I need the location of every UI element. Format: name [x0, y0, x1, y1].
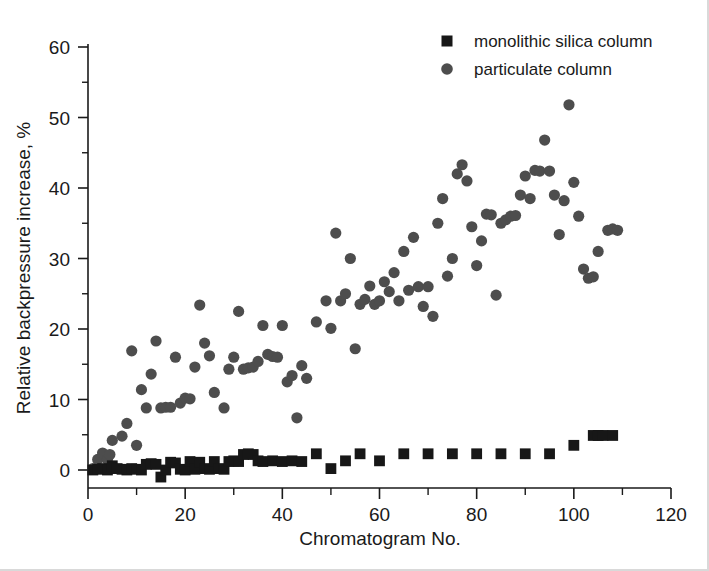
data-point-circle: [340, 288, 351, 299]
data-point-square: [296, 456, 307, 467]
x-tick-label: 120: [655, 504, 687, 525]
legend-label: monolithic silica column: [474, 32, 653, 51]
data-point-square: [398, 448, 409, 459]
data-point-circle: [301, 373, 312, 384]
data-point-circle: [593, 246, 604, 257]
data-point-circle: [141, 402, 152, 413]
data-point-circle: [442, 271, 453, 282]
data-point-square: [355, 448, 366, 459]
data-point-square: [544, 448, 555, 459]
data-point-circle: [252, 356, 263, 367]
y-axis-ticks: [78, 47, 88, 470]
data-point-circle: [359, 294, 370, 305]
data-point-circle: [515, 189, 526, 200]
data-point-circle: [165, 402, 176, 413]
data-point-circle: [116, 431, 127, 442]
data-point-circle: [257, 320, 268, 331]
data-point-circle: [204, 350, 215, 361]
data-point-square: [287, 455, 298, 466]
data-point-circle: [131, 440, 142, 451]
legend-label: particulate column: [474, 60, 612, 79]
x-tick-label: 20: [175, 504, 196, 525]
data-point-circle: [466, 221, 477, 232]
data-point-circle: [612, 225, 623, 236]
data-point-circle: [568, 177, 579, 188]
y-tick-label: 0: [59, 460, 70, 481]
data-point-square: [447, 448, 458, 459]
data-point-square: [471, 448, 482, 459]
y-tick-label: 20: [49, 319, 70, 340]
data-point-square: [311, 448, 322, 459]
data-point-circle: [418, 301, 429, 312]
data-point-circle: [126, 345, 137, 356]
data-point-circle: [146, 369, 157, 380]
data-point-square: [423, 448, 434, 459]
data-point-square: [326, 463, 337, 474]
data-point-square: [520, 448, 531, 459]
data-point-circle: [486, 209, 497, 220]
data-point-circle: [525, 193, 536, 204]
data-point-square: [267, 455, 278, 466]
x-axis: 020406080100120 Chromatogram No.: [83, 488, 687, 549]
data-point-circle: [228, 352, 239, 363]
data-point-circle: [104, 449, 115, 460]
data-point-circle: [199, 338, 210, 349]
data-point-circle: [456, 159, 467, 170]
data-point-circle: [491, 290, 502, 301]
data-point-circle: [374, 295, 385, 306]
data-point-circle: [588, 271, 599, 282]
data-point-circle: [379, 276, 390, 287]
x-tick-label: 40: [272, 504, 293, 525]
data-point-circle: [520, 170, 531, 181]
data-point-circle: [218, 402, 229, 413]
data-point-circle: [136, 384, 147, 395]
legend-marker-circle: [441, 63, 453, 75]
data-point-circle: [277, 320, 288, 331]
data-point-circle: [320, 295, 331, 306]
data-point-circle: [272, 352, 283, 363]
y-axis-title: Relative backpressure increase, %: [13, 122, 34, 415]
chart-legend: monolithic silica columnparticulate colu…: [441, 32, 652, 79]
data-point-square: [598, 430, 609, 441]
data-point-circle: [403, 285, 414, 296]
data-point-circle: [471, 260, 482, 271]
data-point-circle: [388, 267, 399, 278]
data-point-circle: [422, 281, 433, 292]
data-point-circle: [408, 232, 419, 243]
data-point-circle: [311, 316, 322, 327]
data-point-circle: [345, 253, 356, 264]
data-point-circle: [233, 306, 244, 317]
data-point-circle: [189, 361, 200, 372]
data-point-circle: [563, 99, 574, 110]
data-point-circle: [437, 193, 448, 204]
y-tick-label: 40: [49, 178, 70, 199]
data-point-circle: [432, 218, 443, 229]
data-point-circle: [476, 235, 487, 246]
y-tick-label: 30: [49, 249, 70, 270]
y-axis: 0102030405060 Relative backpressure incr…: [13, 37, 88, 488]
data-point-circle: [413, 281, 424, 292]
data-point-circle: [554, 229, 565, 240]
x-tick-label: 60: [369, 504, 390, 525]
y-tick-label: 50: [49, 108, 70, 129]
data-point-circle: [107, 435, 118, 446]
data-point-circle: [447, 253, 458, 264]
data-point-circle: [291, 412, 302, 423]
data-point-circle: [549, 189, 560, 200]
series-monolithic-silica-column: [87, 430, 618, 482]
data-point-circle: [534, 165, 545, 176]
series-particulate-column: [87, 99, 623, 474]
scatter-plot: 0102030405060 Relative backpressure incr…: [0, 0, 709, 571]
data-point-square: [496, 448, 507, 459]
data-point-circle: [296, 360, 307, 371]
y-axis-tick-labels: 0102030405060: [49, 37, 70, 481]
data-point-square: [151, 459, 162, 470]
x-tick-label: 100: [558, 504, 590, 525]
data-point-circle: [184, 393, 195, 404]
data-point-circle: [223, 364, 234, 375]
data-point-circle: [461, 175, 472, 186]
data-point-square: [568, 440, 579, 451]
data-point-circle: [398, 246, 409, 257]
data-point-circle: [330, 228, 341, 239]
data-point-square: [374, 455, 385, 466]
